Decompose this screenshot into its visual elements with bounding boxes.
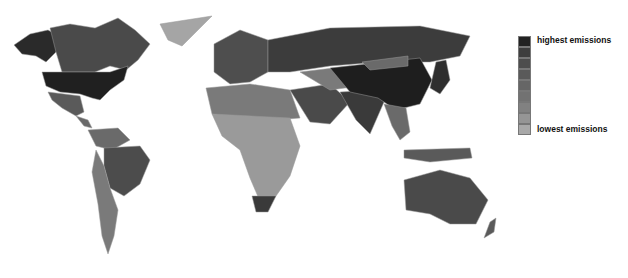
world-emissions-map bbox=[0, 0, 628, 278]
region-central-america bbox=[76, 116, 92, 128]
region-southeast-asia bbox=[384, 104, 410, 140]
region-brazil bbox=[104, 146, 150, 196]
region-indonesia bbox=[404, 148, 472, 162]
legend-swatch-8 bbox=[518, 113, 531, 124]
region-japan-korea bbox=[430, 60, 450, 94]
legend-swatch-3 bbox=[518, 58, 531, 69]
region-new-zealand bbox=[484, 218, 496, 238]
region-australia bbox=[404, 170, 488, 224]
legend-swatch-5 bbox=[518, 80, 531, 91]
region-sub-saharan-africa bbox=[212, 114, 300, 206]
region-europe bbox=[214, 30, 268, 84]
legend-lowest-label: lowest emissions bbox=[537, 124, 607, 134]
region-greenland bbox=[160, 16, 212, 46]
legend-swatch-7 bbox=[518, 102, 531, 113]
legend-swatch-9 bbox=[518, 124, 531, 135]
legend-swatch-1 bbox=[518, 36, 531, 47]
legend-highest-label: highest emissions bbox=[537, 35, 611, 45]
legend-swatch-6 bbox=[518, 91, 531, 102]
region-mexico bbox=[48, 92, 84, 116]
legend-swatch-4 bbox=[518, 69, 531, 80]
region-south-africa bbox=[252, 196, 276, 212]
region-canada bbox=[50, 18, 150, 72]
legend-swatch-2 bbox=[518, 47, 531, 58]
